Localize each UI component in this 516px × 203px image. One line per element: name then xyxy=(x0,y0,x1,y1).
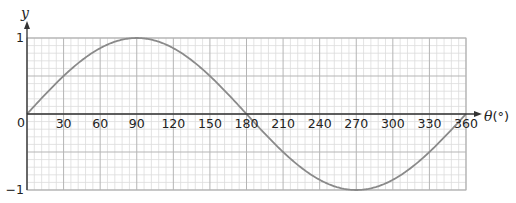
x-axis-unit: (°) xyxy=(492,109,509,124)
y-axis-title: y xyxy=(20,5,30,21)
x-tick-label: 300 xyxy=(381,116,405,131)
x-tick-label: 330 xyxy=(417,116,441,131)
x-tick-labels: 0306090120150180210240270300330360 xyxy=(17,115,478,131)
x-tick-label: 0 xyxy=(17,115,25,130)
x-tick-label: 360 xyxy=(454,116,478,131)
y-tick-label: −1 xyxy=(6,182,24,197)
x-tick-label: 210 xyxy=(271,116,295,131)
x-tick-label: 240 xyxy=(308,116,332,131)
x-tick-label: 150 xyxy=(198,116,222,131)
x-tick-label: 60 xyxy=(92,116,108,131)
x-axis-title: θ(°) xyxy=(484,108,509,124)
x-tick-label: 180 xyxy=(235,116,259,131)
x-tick-label: 120 xyxy=(161,116,185,131)
x-tick-label: 90 xyxy=(129,116,145,131)
y-tick-label: 1 xyxy=(16,30,24,45)
sine-chart: 0306090120150180210240270300330360 1−1 y… xyxy=(0,0,516,203)
y-tick-labels: 1−1 xyxy=(6,30,24,197)
x-tick-label: 30 xyxy=(56,116,72,131)
y-axis-arrow-icon xyxy=(24,21,30,29)
x-tick-label: 270 xyxy=(344,116,368,131)
